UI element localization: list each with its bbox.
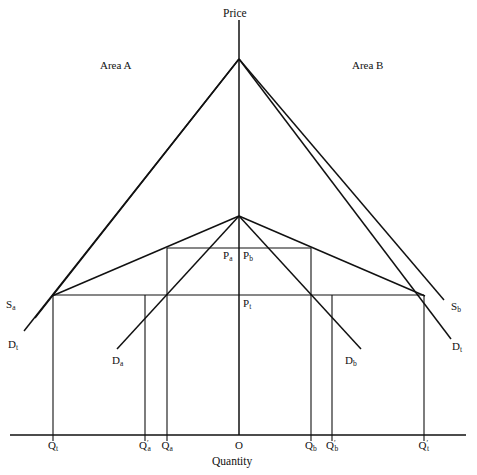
price-b-label: Pb: [243, 250, 253, 262]
demand-t-right-sub: t: [460, 345, 462, 354]
tick-sub-q-b-prime: b: [335, 444, 339, 453]
quantity-axis-label: Quantity: [212, 456, 252, 468]
tick-label-q-b: Qb: [305, 440, 317, 452]
demand-t-left-label: Dt: [8, 339, 18, 351]
tick-label-q-t: Qt: [48, 440, 58, 452]
tick-sub-q-t: t: [56, 444, 58, 453]
demand-a-label: Da: [112, 355, 123, 367]
supply-a-label: Sa: [6, 299, 15, 311]
inner-right-curve: [239, 216, 425, 296]
tick-sub-q-t-prime: t: [427, 444, 429, 453]
demand-a-sub: a: [120, 359, 123, 368]
tick-base-q-b-prime: Q: [326, 439, 334, 451]
tick-sub-q-b: b: [313, 444, 317, 453]
demand-t-left-sub: t: [16, 343, 18, 352]
tick-base-origin: O: [235, 439, 243, 451]
area-a-label: Area A: [100, 60, 131, 71]
demand-b-base: D: [345, 354, 353, 366]
price-t-sub: t: [249, 302, 251, 311]
tick-sub-q-a-prime: a: [148, 444, 151, 453]
demand-t-right-base: D: [452, 340, 460, 352]
tick-base-q-a-prime: Q: [139, 439, 147, 451]
price-a-label: Pa: [223, 250, 232, 262]
supply-b-label: Sb: [451, 301, 461, 313]
tick-label-q-b-prime: Q′b: [326, 440, 338, 452]
price-b-sub: b: [249, 254, 253, 263]
price-t-label: Pt: [243, 298, 251, 310]
demand-a-base: D: [112, 354, 120, 366]
tick-label-origin: O: [235, 440, 243, 451]
tick-base-q-b: Q: [305, 439, 313, 451]
demand-t-right-curve: [239, 59, 451, 339]
supply-a-sub: a: [12, 303, 15, 312]
tick-label-q-a: Qa: [162, 440, 173, 452]
area-b-label: Area B: [352, 60, 383, 71]
tick-sub-q-a: a: [169, 444, 172, 453]
demand-b-sub: b: [353, 359, 357, 368]
tick-label-q-a-prime: Q′a: [139, 440, 151, 452]
supply-b-curve: [239, 59, 444, 300]
diagram-canvas: Price Quantity Area A Area B Pa Pb Pt Sa…: [0, 0, 477, 475]
inner-left-curve: [52, 216, 239, 296]
diagram-svg: [0, 0, 477, 475]
price-axis-label: Price: [223, 8, 247, 20]
tick-base-q-t: Q: [48, 439, 56, 451]
price-a-sub: a: [229, 254, 232, 263]
supply-b-sub: b: [457, 305, 461, 314]
demand-b-curve: [239, 216, 361, 349]
demand-t-left-base: D: [8, 338, 16, 350]
tick-label-q-t-prime: Q′t: [419, 440, 430, 452]
demand-t-left-curve: [24, 59, 239, 331]
demand-a-curve: [117, 216, 239, 349]
demand-b-label: Db: [345, 355, 357, 367]
demand-t-right-label: Dt: [452, 341, 462, 353]
